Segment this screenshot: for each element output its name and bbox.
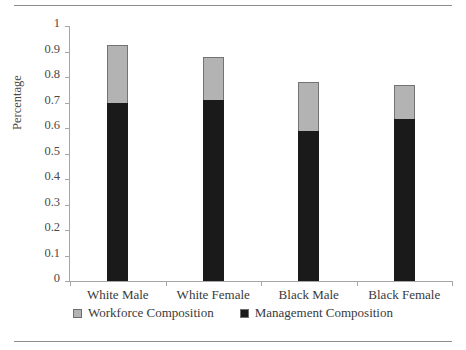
- bar-segment-management[interactable]: [203, 100, 224, 281]
- bar-segment-management[interactable]: [107, 103, 128, 282]
- chart-figure: Percentage 10.90.80.70.60.50.40.30.20.10…: [0, 0, 466, 350]
- legend-item[interactable]: Workforce Composition: [73, 306, 214, 320]
- bar-segment-management[interactable]: [298, 131, 319, 281]
- x-tick-mark: [70, 281, 71, 286]
- x-tick-mark: [452, 281, 453, 286]
- legend-label: Management Composition: [255, 306, 393, 320]
- y-tick-label: 0.3: [44, 196, 60, 209]
- y-tick-label: 0.7: [44, 94, 60, 107]
- y-tick-label: 0.2: [44, 221, 60, 234]
- chart-legend: Workforce CompositionManagement Composit…: [0, 306, 466, 320]
- x-axis-label: Black Female: [357, 288, 453, 302]
- bar-segment-workforce[interactable]: [394, 85, 415, 119]
- x-tick-mark: [166, 281, 167, 286]
- y-tick-label: 1: [54, 17, 60, 30]
- y-tick-label: 0.1: [44, 247, 60, 260]
- legend-label: Workforce Composition: [88, 306, 214, 320]
- bar-black-male[interactable]: [298, 82, 319, 281]
- x-axis-label: White Male: [70, 288, 166, 302]
- bar-white-female[interactable]: [203, 57, 224, 281]
- bar-segment-workforce[interactable]: [203, 57, 224, 100]
- x-tick-mark: [357, 281, 358, 286]
- workforce-swatch: [73, 309, 82, 318]
- legend-item[interactable]: Management Composition: [240, 306, 393, 320]
- y-tick-label: 0.9: [44, 43, 60, 56]
- management-swatch: [240, 309, 249, 318]
- x-axis-label: Black Male: [261, 288, 357, 302]
- bar-white-male[interactable]: [107, 45, 128, 281]
- y-tick-label: 0.8: [44, 68, 60, 81]
- top-rule: [14, 5, 452, 6]
- plot-area: [70, 26, 452, 281]
- y-tick-label: 0.4: [44, 170, 60, 183]
- x-axis-label: White Female: [166, 288, 262, 302]
- y-tick-label: 0.5: [44, 145, 60, 158]
- bar-segment-management[interactable]: [394, 119, 415, 281]
- bar-black-female[interactable]: [394, 85, 415, 281]
- x-tick-mark: [261, 281, 262, 286]
- bar-segment-workforce[interactable]: [298, 82, 319, 130]
- y-tick-label: 0: [54, 272, 60, 285]
- bottom-rule: [14, 341, 452, 342]
- y-tick-label: 0.6: [44, 119, 60, 132]
- bar-segment-workforce[interactable]: [107, 45, 128, 102]
- y-axis-title: Percentage: [11, 48, 24, 158]
